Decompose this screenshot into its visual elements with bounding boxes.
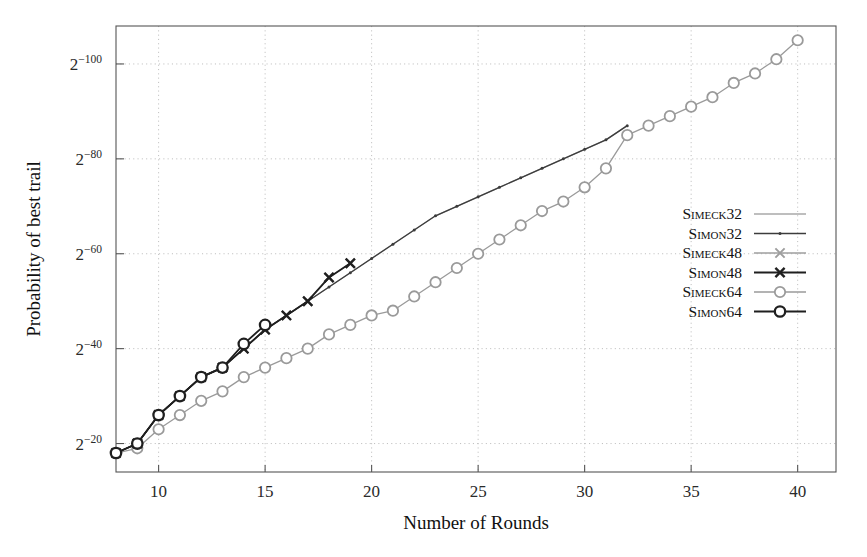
- data-marker-circle: [452, 263, 462, 273]
- data-marker-circle: [473, 249, 483, 259]
- data-marker-circle: [601, 163, 611, 173]
- data-marker-circle: [516, 220, 526, 230]
- data-marker-circle: [153, 410, 163, 420]
- data-marker-cross: [346, 259, 355, 268]
- y-tick-label: 2−40: [76, 338, 103, 359]
- legend-label-simon32: Simon32: [689, 225, 742, 242]
- chart-legend: Simeck32Simon32Simeck48Simon48Simeck64Si…: [682, 205, 806, 320]
- x-tick-label: 30: [576, 482, 593, 501]
- data-marker-circle: [217, 386, 227, 396]
- data-marker-circle: [771, 54, 781, 64]
- x-tick-label: 20: [363, 482, 380, 501]
- data-marker-circle: [132, 438, 142, 448]
- data-marker-dot: [328, 285, 331, 288]
- data-marker-cross: [303, 297, 312, 306]
- data-marker-circle: [579, 182, 589, 192]
- data-marker-dot: [626, 124, 629, 127]
- data-marker-circle: [324, 329, 334, 339]
- x-tick-label: 10: [150, 482, 167, 501]
- data-marker-dot: [455, 205, 458, 208]
- data-marker-circle: [260, 320, 270, 330]
- data-marker-circle: [281, 353, 291, 363]
- data-marker-circle: [792, 35, 802, 45]
- data-marker-dot: [477, 195, 480, 198]
- data-marker-dot: [391, 243, 394, 246]
- data-marker-circle: [260, 362, 270, 372]
- data-marker-circle: [303, 343, 313, 353]
- data-marker-dot: [541, 167, 544, 170]
- data-marker-circle: [775, 306, 785, 316]
- data-marker-circle: [345, 320, 355, 330]
- data-marker-circle: [665, 111, 675, 121]
- data-marker-dot: [434, 214, 437, 217]
- data-marker-circle: [366, 310, 376, 320]
- data-marker-circle: [775, 287, 785, 297]
- data-marker-circle: [239, 339, 249, 349]
- series-simon64: [111, 320, 271, 459]
- data-marker-cross: [324, 273, 333, 282]
- data-marker-circle: [388, 305, 398, 315]
- data-marker-dot: [413, 229, 416, 232]
- data-marker-circle: [686, 101, 696, 111]
- data-marker-circle: [153, 424, 163, 434]
- y-tick-label: 2−80: [76, 148, 103, 169]
- legend-label-simeck48: Simeck48: [682, 244, 742, 261]
- data-marker-dot: [498, 186, 501, 189]
- x-axis-label: Number of Rounds: [403, 512, 549, 533]
- data-marker-circle: [430, 277, 440, 287]
- data-marker-circle: [175, 391, 185, 401]
- data-marker-circle: [239, 372, 249, 382]
- data-marker-circle: [409, 291, 419, 301]
- data-marker-circle: [494, 234, 504, 244]
- x-tick-label: 25: [470, 482, 487, 501]
- data-marker-dot: [604, 138, 607, 141]
- data-marker-circle: [707, 92, 717, 102]
- legend-label-simon48: Simon48: [689, 264, 743, 281]
- legend-label-simeck64: Simeck64: [682, 283, 742, 300]
- data-marker-dot: [779, 232, 782, 235]
- data-marker-circle: [111, 448, 121, 458]
- data-marker-dot: [349, 271, 352, 274]
- data-marker-circle: [643, 120, 653, 130]
- data-marker-circle: [558, 196, 568, 206]
- data-marker-circle: [729, 78, 739, 88]
- x-tick-label: 15: [257, 482, 274, 501]
- data-marker-circle: [196, 396, 206, 406]
- y-tick-label: 2−100: [70, 53, 102, 74]
- probability-of-best-trail-chart: 101520253035402−202−402−602−802−100Numbe…: [0, 0, 867, 557]
- chart-figure: 101520253035402−202−402−602−802−100Numbe…: [0, 0, 867, 557]
- y-axis-label: Probability of best trail: [23, 161, 44, 337]
- data-marker-dot: [583, 148, 586, 151]
- data-marker-circle: [175, 410, 185, 420]
- data-marker-circle: [537, 206, 547, 216]
- data-marker-dot: [519, 176, 522, 179]
- x-tick-label: 40: [789, 482, 806, 501]
- data-marker-circle: [622, 130, 632, 140]
- y-tick-label: 2−20: [76, 433, 103, 454]
- data-marker-dot: [562, 157, 565, 160]
- data-marker-circle: [217, 362, 227, 372]
- series-simon48: [111, 259, 355, 458]
- legend-label-simeck32: Simeck32: [682, 205, 742, 222]
- data-marker-circle: [750, 68, 760, 78]
- data-marker-cross: [282, 311, 291, 320]
- data-marker-circle: [196, 372, 206, 382]
- legend-label-simon64: Simon64: [689, 303, 743, 320]
- y-tick-label: 2−60: [76, 243, 103, 264]
- x-tick-label: 35: [683, 482, 700, 501]
- data-marker-dot: [370, 257, 373, 260]
